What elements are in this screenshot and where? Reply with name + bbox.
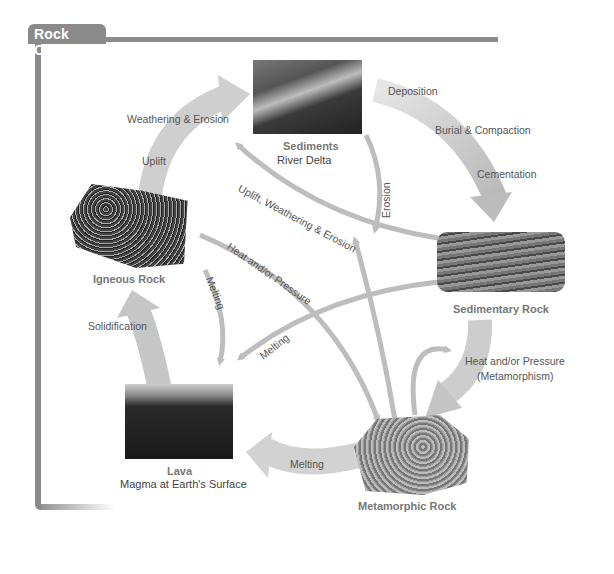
lava-title: Lava [167, 465, 192, 477]
metamorphic-rock-photo [354, 415, 469, 495]
label-uplift: Uplift [142, 155, 166, 167]
arrow-igneous-to-sediments [150, 75, 250, 195]
sediments-photo [253, 60, 362, 134]
label-cementation: Cementation [477, 168, 537, 180]
sediments-subtitle: River Delta [277, 154, 331, 166]
lava-subtitle: Magma at Earth's Surface [120, 478, 247, 490]
label-solidification: Solidification [88, 320, 147, 332]
arrow-sedimentary-to-sediments-uplift [238, 145, 438, 238]
label-deposition: Deposition [388, 85, 438, 97]
metamorphic-rock-title: Metamorphic Rock [358, 500, 456, 512]
sedimentary-rock-photo [437, 232, 565, 292]
arrow-sedimentary-to-metamorphic [425, 320, 480, 418]
lava-photo [125, 384, 233, 459]
arrow-lava-to-igneous [117, 290, 160, 390]
sedimentary-rock-title: Sedimentary Rock [453, 303, 549, 315]
arrow-sediments-erosion [366, 135, 380, 230]
arrow-metamorphic-to-sediments [355, 240, 395, 420]
label-heat-pressure-metamorphism-1: Heat and/or Pressure [465, 355, 565, 367]
arrow-sediments-to-sedimentary [375, 90, 512, 222]
sediments-title: Sediments [283, 140, 339, 152]
label-weathering-erosion: Weathering & Erosion [127, 113, 229, 125]
label-erosion: Erosion [380, 182, 392, 218]
igneous-rock-title: Igneous Rock [93, 273, 165, 285]
label-burial-compaction: Burial & Compaction [435, 124, 531, 136]
arrow-metamorphic-to-lava [246, 432, 360, 478]
label-heat-pressure-metamorphism-2: (Metamorphism) [477, 370, 553, 382]
label-melting-metamorphic: Melting [290, 458, 324, 470]
